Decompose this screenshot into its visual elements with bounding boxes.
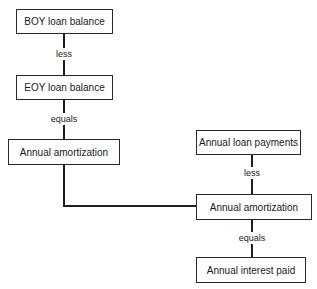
operator-less-left: less (56, 48, 72, 60)
connector-link-across (63, 205, 196, 207)
annual-amortization-right-box: Annual amortization (196, 194, 312, 220)
operator-less-right: less (244, 167, 260, 179)
boy-loan-balance-label: BOY loan balance (24, 16, 104, 27)
eoy-loan-balance-label: EOY loan balance (24, 82, 104, 93)
boy-loan-balance-box: BOY loan balance (16, 9, 113, 34)
annual-interest-paid-box: Annual interest paid (196, 257, 306, 283)
annual-amortization-left-label: Annual amortization (20, 147, 108, 158)
annual-loan-payments-box: Annual loan payments (196, 130, 301, 155)
annual-amortization-right-label: Annual amortization (210, 202, 298, 213)
connector-link-down (63, 165, 65, 207)
annual-loan-payments-label: Annual loan payments (199, 137, 298, 148)
operator-equals-right: equals (239, 232, 266, 244)
annual-interest-paid-label: Annual interest paid (207, 265, 295, 276)
annual-amortization-left-box: Annual amortization (8, 139, 120, 165)
operator-equals-left: equals (51, 113, 78, 125)
eoy-loan-balance-box: EOY loan balance (16, 75, 113, 100)
